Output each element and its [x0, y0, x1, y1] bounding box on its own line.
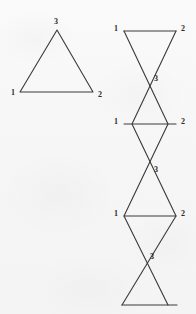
strip-vertex-label-3-a: 3: [154, 75, 158, 83]
triangle-outline: [20, 30, 93, 92]
vertex-label-3: 3: [54, 18, 58, 26]
single-triangle-panel: [20, 30, 93, 92]
strip-zigzag-right: [122, 31, 176, 305]
vertex-label-2: 2: [98, 91, 102, 99]
figure-canvas: 312123123123: [0, 0, 196, 314]
strip-vertex-label-2-a: 2: [181, 25, 185, 33]
strip-vertex-label-1-b: 1: [114, 118, 118, 126]
vertex-label-1: 1: [11, 89, 15, 97]
strip-vertex-label-3-b: 3: [154, 166, 158, 174]
strip-vertex-label-2-b: 2: [181, 118, 185, 126]
strip-vertex-label-3-c: 3: [150, 253, 154, 261]
strip-vertex-label-2-c: 2: [181, 210, 185, 218]
strip-vertex-label-1-c: 1: [114, 210, 118, 218]
strip-vertex-label-1-a: 1: [114, 25, 118, 33]
triangle-strip-panel: [122, 31, 177, 305]
line-drawing: [0, 0, 196, 314]
strip-zigzag-left: [124, 31, 168, 305]
